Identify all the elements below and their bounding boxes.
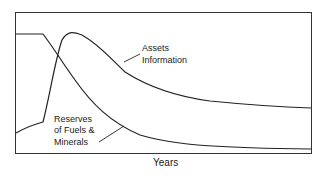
reserves-label-line2: of Fuels & (54, 125, 95, 135)
assets-leader-line (124, 54, 140, 62)
reserves-label-line1: Reserves (54, 114, 92, 124)
reserves-label-line3: Minerals (54, 137, 88, 147)
chart-canvas (0, 0, 324, 178)
assets-label-line2: Information (142, 55, 187, 65)
x-axis-label: Years (153, 158, 178, 168)
assets-label-line1: Assets (142, 43, 169, 53)
reserves-leader-line (99, 126, 124, 142)
